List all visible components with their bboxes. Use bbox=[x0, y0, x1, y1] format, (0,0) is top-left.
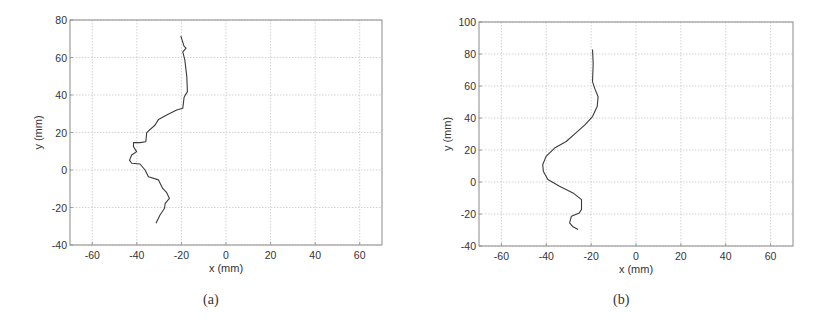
figure-a: -60-40-200204060-40-20020406080x (mm)y (… bbox=[0, 0, 415, 331]
y-tick-label: 80 bbox=[464, 48, 476, 60]
y-tick-label: 0 bbox=[470, 176, 476, 188]
chart-b-plot: -60-40-200204060-40-20020406080100x (mm)… bbox=[410, 0, 830, 331]
x-tick-label: 40 bbox=[720, 250, 732, 262]
y-tick-label: 40 bbox=[55, 89, 67, 101]
y-tick-label: 20 bbox=[55, 127, 67, 139]
y-tick-label: -20 bbox=[461, 208, 476, 220]
y-axis-label: y (mm) bbox=[32, 115, 44, 149]
y-tick-label: 0 bbox=[61, 164, 67, 176]
y-tick-label: 40 bbox=[464, 112, 476, 124]
caption-b: (b) bbox=[613, 292, 629, 308]
y-tick-label: 100 bbox=[458, 16, 476, 28]
x-tick-label: 40 bbox=[309, 249, 321, 261]
x-tick-label: 60 bbox=[765, 250, 777, 262]
x-tick-label: -40 bbox=[539, 250, 554, 262]
trajectory-line bbox=[543, 50, 598, 230]
x-tick-label: -40 bbox=[129, 249, 144, 261]
y-tick-label: -20 bbox=[52, 202, 67, 214]
y-tick-label: 60 bbox=[55, 52, 67, 64]
grid bbox=[479, 22, 793, 246]
x-tick-label: 0 bbox=[223, 249, 229, 261]
x-tick-label: -20 bbox=[174, 249, 189, 261]
x-tick-label: 60 bbox=[354, 249, 366, 261]
y-tick-label: 80 bbox=[55, 14, 67, 26]
x-tick-label: 20 bbox=[265, 249, 277, 261]
trajectory-line bbox=[130, 36, 188, 224]
x-tick-label: -20 bbox=[584, 250, 599, 262]
y-axis-label: y (mm) bbox=[441, 117, 453, 151]
y-tick-label: 60 bbox=[464, 80, 476, 92]
x-axis-label: x (mm) bbox=[209, 262, 243, 274]
x-tick-label: -60 bbox=[494, 250, 509, 262]
y-tick-label: -40 bbox=[52, 239, 67, 251]
x-axis-label: x (mm) bbox=[619, 263, 653, 275]
chart-a-plot: -60-40-200204060-40-20020406080x (mm)y (… bbox=[0, 0, 415, 331]
grid bbox=[70, 20, 382, 245]
x-tick-label: 20 bbox=[675, 250, 687, 262]
figure-b: -60-40-200204060-40-20020406080100x (mm)… bbox=[410, 0, 830, 331]
x-tick-label: -60 bbox=[85, 249, 100, 261]
y-tick-label: 20 bbox=[464, 144, 476, 156]
caption-a: (a) bbox=[203, 292, 219, 308]
y-tick-label: -40 bbox=[461, 240, 476, 252]
x-tick-label: 0 bbox=[633, 250, 639, 262]
